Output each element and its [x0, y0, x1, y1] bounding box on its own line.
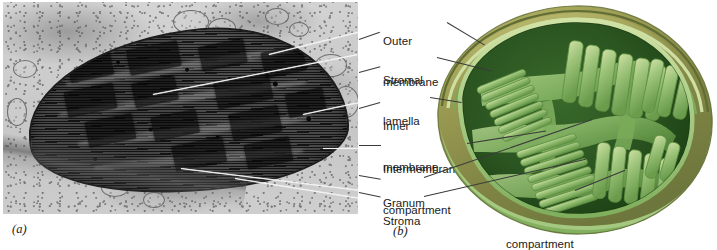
- electron-micrograph-panel-a: [3, 2, 358, 214]
- leader-gutter-stromal-lamella: [359, 66, 381, 73]
- label-stromal-lamella-line1: Stromal: [383, 74, 423, 88]
- leader-gutter-granum: [359, 175, 381, 180]
- leader-gutter-intermembrane: [359, 145, 381, 146]
- panel-tag-a: (a): [12, 222, 27, 237]
- cytoplasm-vesicle: [7, 98, 27, 126]
- label-stroma: Stroma: [383, 188, 420, 250]
- panel-tag-b: (b): [393, 224, 408, 239]
- figure-chloroplast: (a) Outer membrane Stromal lamella Inner…: [0, 0, 717, 250]
- leader-gutter-stroma: [359, 192, 381, 198]
- leader-line-intermembrane: [323, 148, 358, 149]
- leader-gutter-inner-membrane: [359, 102, 380, 109]
- chloroplast-illustration-panel-b: [420, 2, 717, 248]
- leader-gutter-outer-membrane: [359, 32, 380, 40]
